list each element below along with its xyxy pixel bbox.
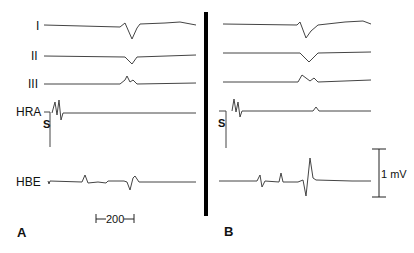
trace-b-lead-iii xyxy=(223,75,371,82)
trace-a-lead-hra xyxy=(52,100,196,120)
lead-label-i: I xyxy=(36,20,39,32)
stimulus-label-a: S xyxy=(43,118,50,130)
lead-label-iii: III xyxy=(28,78,38,90)
trace-b-lead-hra xyxy=(232,99,371,117)
time-scale-label: 200 xyxy=(106,213,124,225)
trace-a-lead-i xyxy=(44,22,196,39)
panel-label-b: B xyxy=(224,224,233,239)
panel-divider xyxy=(204,12,208,216)
stimulus-label-b: S xyxy=(218,117,225,129)
trace-a-lead-iii xyxy=(44,76,196,84)
panel-label-a: A xyxy=(17,225,26,240)
voltage-scale-label: 1 mV xyxy=(381,168,407,180)
lead-label-hra: HRA xyxy=(16,106,41,118)
electrogram-figure: I II III HRA HBE S S 200 1 mV A B xyxy=(0,0,414,253)
traces-canvas xyxy=(0,0,414,253)
trace-a-lead-ii xyxy=(44,55,196,64)
lead-label-hbe: HBE xyxy=(16,176,41,188)
lead-label-ii: II xyxy=(31,50,38,62)
trace-b-lead-hbe xyxy=(219,158,371,196)
trace-b-lead-i xyxy=(223,21,371,38)
trace-b-lead-ii xyxy=(223,52,371,62)
trace-a-lead-hbe xyxy=(48,175,196,190)
